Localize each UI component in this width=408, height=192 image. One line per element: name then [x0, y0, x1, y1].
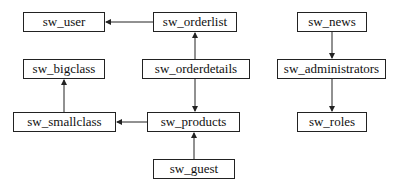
- node-sw-roles: sw_roles: [297, 112, 367, 132]
- node-label: sw_orderlist: [163, 14, 227, 30]
- node-sw-orderdetails: sw_orderdetails: [142, 59, 250, 79]
- node-sw-guest: sw_guest: [153, 159, 235, 179]
- node-label: sw_bigclass: [33, 61, 96, 77]
- node-label: sw_products: [161, 114, 227, 130]
- node-label: sw_guest: [170, 161, 218, 177]
- node-label: sw_administrators: [284, 61, 379, 77]
- node-sw-user: sw_user: [23, 12, 105, 32]
- node-sw-administrators: sw_administrators: [277, 59, 386, 79]
- node-sw-orderlist: sw_orderlist: [153, 12, 237, 32]
- node-sw-smallclass: sw_smallclass: [13, 112, 116, 132]
- node-label: sw_orderdetails: [155, 61, 237, 77]
- node-label: sw_roles: [309, 114, 355, 130]
- node-label: sw_smallclass: [27, 114, 101, 130]
- node-sw-news: sw_news: [297, 12, 367, 32]
- node-label: sw_user: [43, 14, 86, 30]
- node-sw-bigclass: sw_bigclass: [23, 59, 105, 79]
- node-label: sw_news: [308, 14, 356, 30]
- node-sw-products: sw_products: [147, 112, 240, 132]
